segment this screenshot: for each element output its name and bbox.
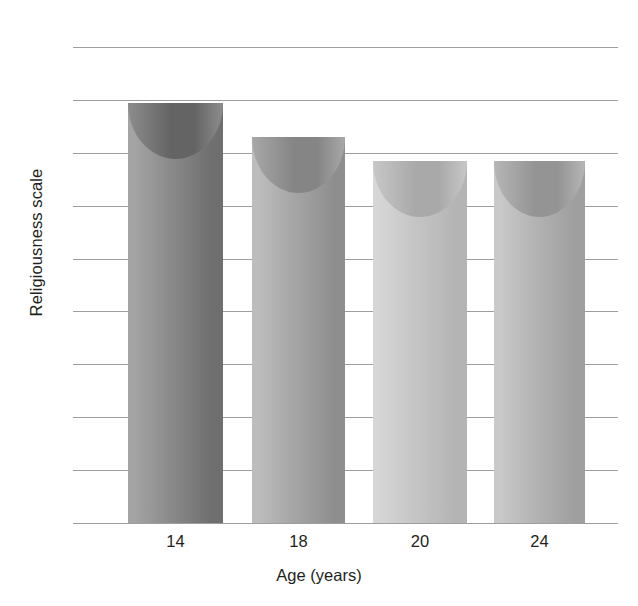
bar-body	[252, 137, 345, 523]
x-axis-tick-label: 14	[128, 532, 223, 551]
bar-chart: Religiousness scale 181614121086420 Age …	[0, 0, 638, 606]
gridline	[73, 47, 618, 48]
x-axis-tick-label: 24	[494, 532, 585, 551]
bar-18	[252, 137, 345, 523]
x-axis-tick-label: 20	[373, 532, 467, 551]
bar-body	[128, 103, 223, 523]
gridline	[73, 100, 618, 101]
x-axis-title: Age (years)	[0, 566, 638, 585]
bar-20	[373, 161, 467, 523]
gridline	[73, 523, 618, 524]
plot-area: 181614121086420	[73, 47, 618, 523]
bar-24	[494, 161, 585, 523]
bar-14	[128, 103, 223, 523]
x-axis-tick-label: 18	[252, 532, 345, 551]
y-axis-title: Religiousness scale	[27, 113, 46, 373]
